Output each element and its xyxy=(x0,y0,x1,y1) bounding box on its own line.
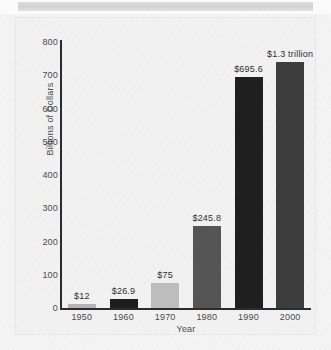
x-tick-label-1960: 1960 xyxy=(104,312,144,322)
bar-1970 xyxy=(151,283,179,308)
bar-1960 xyxy=(110,299,138,308)
bar-2000 xyxy=(276,62,304,308)
x-tick-label-2000: 2000 xyxy=(270,312,310,322)
x-axis-title: Year xyxy=(61,324,311,334)
top-banner-strip xyxy=(18,2,313,11)
x-tick-label-1970: 1970 xyxy=(145,312,185,322)
y-tick-label: 300 xyxy=(28,204,58,213)
x-tick-label-1990: 1990 xyxy=(229,312,269,322)
bar-chart-panel: 0100200300400500600700800 Billions of Do… xyxy=(16,18,315,334)
bar-1980 xyxy=(193,226,221,308)
y-tick-label: 100 xyxy=(28,271,58,280)
y-axis-title: Billions of Dollars xyxy=(45,59,55,179)
bar-1950 xyxy=(68,304,96,308)
bar-value-label-2000: $1.3 trillion xyxy=(250,49,330,59)
page-root: 0100200300400500600700800 Billions of Do… xyxy=(0,0,331,350)
x-axis-line xyxy=(60,308,311,310)
bar-1990 xyxy=(235,77,263,308)
plot-area: $12$26.9$75$245.8$695.6$1.3 trillion xyxy=(61,42,311,308)
x-tick-label-1980: 1980 xyxy=(187,312,227,322)
x-tick-label-1950: 1950 xyxy=(62,312,102,322)
y-tick-label: 200 xyxy=(28,238,58,247)
y-tick-label: 0 xyxy=(28,304,58,313)
y-tick-label: 800 xyxy=(28,38,58,47)
